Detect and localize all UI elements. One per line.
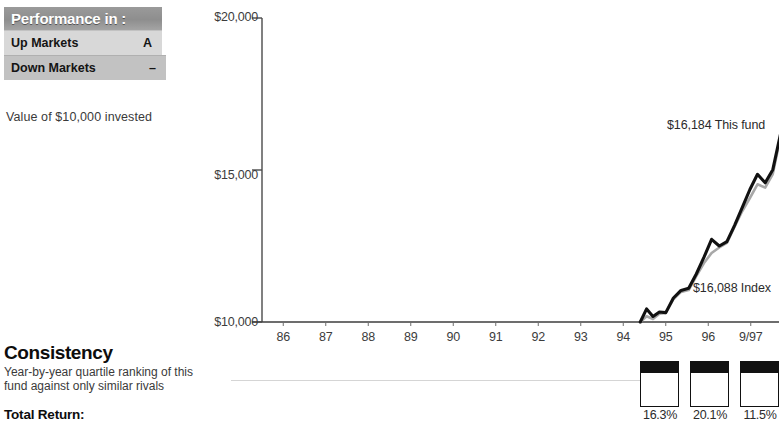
x-axis-tick-label-9-97: 9/97 — [729, 330, 773, 344]
y-axis-tick-label-15000: $15,000 — [186, 168, 258, 182]
quartile-box — [640, 361, 679, 407]
x-axis-tick-label-87: 87 — [304, 330, 348, 344]
x-axis-tick-label-88: 88 — [346, 330, 390, 344]
consistency-divider — [231, 380, 676, 381]
x-axis-tick-label-91: 91 — [474, 330, 518, 344]
x-axis-tick-label-93: 93 — [559, 330, 603, 344]
y-axis-tick-label-20000: $20,000 — [186, 10, 258, 24]
quartile-total-return-pct: 11.5% — [737, 408, 779, 422]
chart-plot-svg — [0, 0, 779, 360]
growth-of-10000-chart: $20,000 $15,000 $10,000 8687888990919293… — [0, 0, 779, 360]
x-axis-tick-label-94: 94 — [601, 330, 645, 344]
quartile-fill-rank-1 — [691, 362, 728, 373]
quartile-total-return-pct: 16.3% — [637, 408, 683, 422]
quartile-total-return-pct: 20.1% — [687, 408, 733, 422]
quartile-fill-rank-1 — [641, 362, 678, 373]
x-axis-tick-label-89: 89 — [389, 330, 433, 344]
x-axis-tick-label-90: 90 — [431, 330, 475, 344]
consistency-title: Consistency — [4, 342, 244, 364]
y-axis-tick-label-10000: $10,000 — [186, 315, 258, 329]
total-return-label: Total Return: — [4, 407, 84, 422]
x-axis-tick-label-96: 96 — [686, 330, 730, 344]
x-axis-tick-label-92: 92 — [516, 330, 560, 344]
annotation-this-fund: $16,184 This fund — [667, 118, 765, 132]
annotation-index: $16,088 Index — [693, 281, 771, 295]
quartile-box — [690, 361, 729, 407]
quartile-box — [740, 361, 779, 407]
consistency-subtitle: Year-by-year quartile ranking of this fu… — [4, 365, 194, 393]
quartile-fill-rank-1 — [741, 362, 778, 373]
consistency-section: Consistency Year-by-year quartile rankin… — [4, 342, 244, 393]
x-axis-tick-label-95: 95 — [644, 330, 688, 344]
x-axis-tick-label-86: 86 — [261, 330, 305, 344]
